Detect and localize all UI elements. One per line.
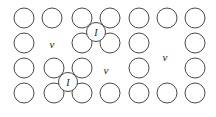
atom-sites-group <box>14 8 205 103</box>
lattice-canvas: II vvv <box>0 0 216 117</box>
interstitial-label: I <box>65 77 70 88</box>
atom-circle <box>185 58 205 78</box>
atom-circle <box>129 33 149 53</box>
vacancy-label: v <box>104 64 109 76</box>
atom-circle <box>14 33 34 53</box>
atom-circle <box>14 58 34 78</box>
atom-circle <box>157 83 177 103</box>
atom-circle <box>14 8 34 28</box>
atom-circle <box>42 8 62 28</box>
atom-circle <box>185 8 205 28</box>
atom-circle <box>185 33 205 53</box>
atom-circle <box>129 58 149 78</box>
lattice-defect-diagram: II vvv <box>0 0 216 117</box>
vacancy-label: v <box>163 51 168 63</box>
vacancy-label: v <box>50 38 55 50</box>
atom-circle <box>185 83 205 103</box>
atom-circle <box>100 83 120 103</box>
atom-circle <box>157 8 177 28</box>
atom-circle <box>14 83 34 103</box>
interstitial-label: I <box>93 27 98 38</box>
atom-circle <box>129 8 149 28</box>
atom-circle <box>129 83 149 103</box>
